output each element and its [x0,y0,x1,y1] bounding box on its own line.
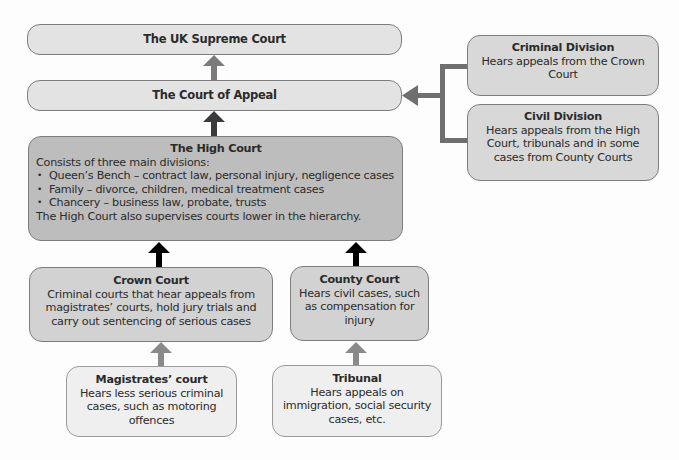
node-county-court: County Court Hears civil cases, such as … [290,266,429,341]
civil-division-title: Civil Division [468,110,658,124]
arrow-left-icon [402,85,418,106]
node-magistrates-court: Magistrates’ court Hears less serious cr… [66,366,237,437]
magistrates-court-title: Magistrates’ court [67,373,236,387]
magistrates-court-line: offences [67,414,236,428]
high-court-title: The High Court [36,142,396,156]
arrow-up-icon [345,342,367,366]
arrow-up-icon [203,111,225,136]
criminal-division-line: Hears appeals from the Crown [468,55,658,69]
bracket-bottom-connector [440,138,468,143]
court-of-appeal-title: The Court of Appeal [152,89,277,103]
criminal-division-line: Court [468,68,658,82]
high-court-division-item: Family – divorce, children, medical trea… [36,183,396,197]
arrow-up-icon [150,342,172,366]
crown-court-title: Crown Court [30,274,272,288]
bracket-connector [440,64,445,143]
high-court-division-item: Queen’s Bench – contract law, personal i… [36,169,396,183]
high-court-division-item: Chancery – business law, probate, trusts [36,196,396,210]
node-criminal-division: Criminal Division Hears appeals from the… [467,35,659,96]
arrow-up-icon [345,242,367,267]
county-court-title: County Court [291,273,428,287]
arrow-up-icon [203,55,225,80]
tribunal-line: Hears appeals on [273,386,441,400]
tribunal-line: immigration, social security [273,399,441,413]
high-court-footer: The High Court also supervises courts lo… [36,210,396,224]
crown-court-line: carry out sentencing of serious cases [30,315,272,329]
node-high-court: The High Court Consists of three main di… [28,136,403,241]
civil-division-line: Hears appeals from the High [468,124,658,138]
node-crown-court: Crown Court Criminal courts that hear ap… [29,267,273,342]
supreme-court-title: The UK Supreme Court [143,33,286,47]
crown-court-line: Criminal courts that hear appeals from [30,288,272,302]
tribunal-line: cases, etc. [273,413,441,427]
magistrates-court-line: Hears less serious criminal [67,387,236,401]
county-court-line: injury [291,314,428,328]
county-court-line: as compensation for [291,300,428,314]
node-civil-division: Civil Division Hears appeals from the Hi… [467,104,659,181]
bracket-top-connector [440,64,468,69]
criminal-division-title: Criminal Division [468,41,658,55]
county-court-line: Hears civil cases, such [291,287,428,301]
arrow-up-icon [148,242,170,267]
high-court-divisions-list: Queen’s Bench – contract law, personal i… [36,169,396,210]
bracket-stem [414,93,442,98]
magistrates-court-line: cases, such as motoring [67,400,236,414]
node-tribunal: Tribunal Hears appeals on immigration, s… [272,365,442,437]
tribunal-title: Tribunal [273,372,441,386]
node-court-of-appeal: The Court of Appeal [27,80,402,111]
civil-division-line: Court, tribunals and in some [468,137,658,151]
civil-division-line: cases from County Courts [468,151,658,165]
crown-court-line: magistrates’ courts, hold jury trials an… [30,301,272,315]
node-supreme-court: The UK Supreme Court [27,24,402,55]
high-court-intro: Consists of three main divisions: [36,156,396,170]
